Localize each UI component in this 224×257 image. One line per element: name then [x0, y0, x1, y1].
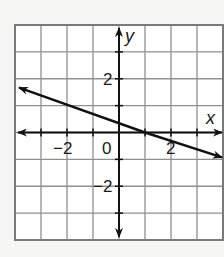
x-tick-label: −2 [53, 139, 72, 158]
origin-label: 0 [102, 139, 111, 158]
y-tick-label: −2 [93, 177, 112, 196]
x-axis-label: x [205, 108, 216, 128]
y-axis-label: y [123, 26, 135, 46]
y-tick-label: 2 [103, 70, 112, 89]
coordinate-graph: −2022−2 x y [0, 0, 224, 257]
